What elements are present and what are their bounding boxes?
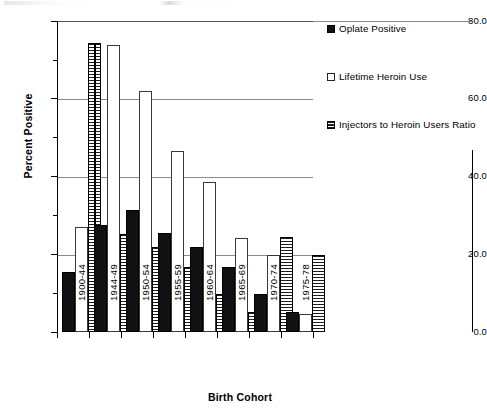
open-white-square-icon xyxy=(327,73,335,81)
bar-1955-59-opiate-positive xyxy=(158,233,171,332)
bar-1975-78-opiate-positive xyxy=(286,312,299,332)
filled-black-square-icon xyxy=(327,25,335,33)
x-category-label-1950-54: 1950-54 xyxy=(141,264,151,338)
y-axis-title: Percent Positive xyxy=(22,76,34,196)
bar-1900-44-opiate-positive xyxy=(62,272,75,332)
x-tick-4 xyxy=(185,332,186,338)
bar-1975-78-injectors-ratio xyxy=(312,255,325,332)
x-tick-6 xyxy=(249,332,250,338)
bar-chart-figure: 80.0 60.0 40.0 20.0 0.0 Percent Positive xyxy=(0,0,487,410)
legend-label-opiate-positive: Oplate Positive xyxy=(339,24,406,34)
x-tick-0 xyxy=(57,332,58,338)
x-tick-1 xyxy=(89,332,90,338)
y-tick-label-20: 20.0 xyxy=(441,249,487,259)
x-category-label-1900-44: 1900-44 xyxy=(77,264,87,338)
x-tick-3 xyxy=(153,332,154,338)
plot-top-rule-extension xyxy=(313,21,472,22)
x-tick-7 xyxy=(281,332,282,338)
x-category-label-1960-64: 1960-64 xyxy=(205,264,215,338)
plot-right-rule xyxy=(472,150,473,332)
legend-label-lifetime-heroin-use: Lifetime Heroin Use xyxy=(339,72,427,82)
x-category-label-1965-69: 1965-69 xyxy=(237,264,247,338)
x-category-label-1955-59: 1955-59 xyxy=(173,264,183,338)
scan-artifact xyxy=(4,1,254,5)
bar-1965-69-opiate-positive xyxy=(222,267,235,332)
y-tick-label-60: 60.0 xyxy=(441,93,487,103)
bar-1944-49-opiate-positive-bar xyxy=(94,225,107,332)
x-category-label-1970-74: 1970-74 xyxy=(269,264,279,338)
bar-1960-64-opiate-positive xyxy=(190,247,203,332)
y-tick-label-40: 40.0 xyxy=(441,171,487,181)
legend-item-injectors-ratio: Injectors to Heroin Users Ratio xyxy=(327,120,476,130)
x-tick-8 xyxy=(313,332,314,338)
legend-item-lifetime-heroin-use: Lifetime Heroin Use xyxy=(327,72,427,82)
x-tick-2 xyxy=(121,332,122,338)
x-axis-title: Birth Cohort xyxy=(140,391,340,403)
x-category-label-1975-78: 1975-78 xyxy=(301,264,311,338)
legend-label-injectors-ratio: Injectors to Heroin Users Ratio xyxy=(339,120,476,130)
y-tick-label-0: 0.0 xyxy=(441,327,487,337)
hatched-gray-square-icon xyxy=(327,121,335,129)
x-category-label-1944-49: 1944-49 xyxy=(109,264,119,338)
x-tick-5 xyxy=(217,332,218,338)
bar-1950-54-opiate-positive xyxy=(126,210,139,332)
bar-1970-74-opiate-positive xyxy=(254,294,267,332)
legend-item-opiate-positive: Oplate Positive xyxy=(327,24,406,34)
